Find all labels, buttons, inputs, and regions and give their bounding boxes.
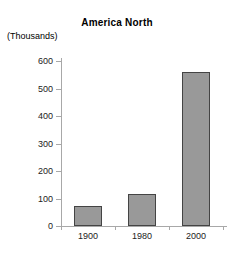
y-axis-tick-label: 500 bbox=[38, 85, 53, 94]
x-axis-label-2000: 2000 bbox=[171, 231, 221, 241]
bar-1980[interactable] bbox=[128, 194, 156, 226]
y-axis-tick-label: 300 bbox=[38, 140, 53, 149]
x-axis-tick bbox=[169, 226, 170, 230]
x-axis-tick bbox=[61, 226, 62, 230]
x-axis-line bbox=[56, 226, 227, 227]
x-axis-label-1900: 1900 bbox=[63, 231, 113, 241]
chart-figure: America North (Thousands) 01002003004005… bbox=[0, 0, 234, 263]
plot-area bbox=[61, 61, 223, 226]
y-axis-unit-label: (Thousands) bbox=[7, 31, 58, 41]
y-axis-tick-label: 400 bbox=[38, 112, 53, 121]
bar-1900[interactable] bbox=[74, 206, 102, 226]
x-axis-tick bbox=[115, 226, 116, 230]
y-axis-tick-label: 200 bbox=[38, 167, 53, 176]
x-axis-tick bbox=[223, 226, 224, 230]
y-axis-tick-label: 600 bbox=[38, 57, 53, 66]
bar-2000[interactable] bbox=[182, 72, 210, 226]
y-axis-tick-label: 100 bbox=[38, 195, 53, 204]
x-axis-label-1980: 1980 bbox=[117, 231, 167, 241]
y-axis-tick-label: 0 bbox=[48, 222, 53, 231]
chart-title: America North bbox=[0, 17, 234, 28]
